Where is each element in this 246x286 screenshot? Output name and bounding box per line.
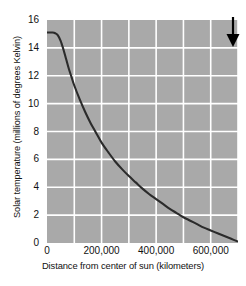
y-tick-label: 12 — [28, 71, 39, 81]
horizontal-gridlines — [47, 48, 238, 215]
y-tick-label: 6 — [33, 154, 39, 164]
solar-surface-arrow-icon — [220, 15, 246, 51]
solar-temperature-chart: Solar temperature (millions of degrees K… — [0, 0, 246, 286]
x-tick-label: 400,000 — [138, 245, 174, 257]
temperature-curve — [47, 32, 238, 241]
y-tick-label: 4 — [33, 182, 39, 192]
y-tick-label: 10 — [28, 99, 39, 109]
x-tick-label: 600,000 — [193, 245, 229, 257]
y-tick-label: 14 — [28, 43, 39, 53]
x-tick-label: 0 — [44, 245, 50, 257]
x-axis-title: Distance from center of sun (kilometers) — [0, 260, 246, 271]
plot-svg — [47, 20, 238, 243]
y-tick-label: 2 — [33, 210, 39, 220]
x-axis-tick-labels: 0200,000400,000600,000 — [0, 245, 246, 261]
y-tick-label: 16 — [28, 15, 39, 25]
y-tick-label: 8 — [33, 127, 39, 137]
plot-area — [47, 20, 238, 243]
x-tick-label: 200,000 — [83, 245, 119, 257]
y-axis-tick-labels: 0246810121416 — [0, 0, 45, 286]
